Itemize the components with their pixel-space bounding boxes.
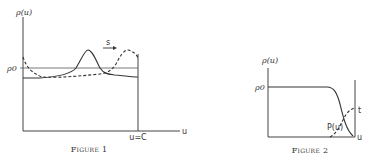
fig2-x-label: u — [357, 133, 362, 142]
fig2-rho0-label: ρ0 — [254, 83, 265, 92]
fig1-arrow-head-icon — [113, 46, 117, 50]
fig1-rho0-label: ρ0 — [6, 64, 17, 73]
fig2-arrow-label: t — [358, 106, 361, 115]
fig2-caption: Figure 2 — [292, 146, 329, 155]
fig1-boundary-label: u=C — [129, 133, 147, 142]
fig2-curve-label: P(u) — [327, 123, 343, 132]
fig1-dashed-curve — [23, 50, 138, 77]
fig1-arrow-label: s — [106, 38, 110, 47]
fig1-caption: Figure 1 — [71, 145, 108, 154]
figure-1: s ρ(u) ρ0 u u=C Figure 1 — [6, 8, 187, 154]
figures-canvas: s ρ(u) ρ0 u u=C Figure 1 ρ(u) ρ0 P(u) t … — [0, 0, 373, 161]
fig1-solid-curve — [23, 50, 138, 78]
figure-2: ρ(u) ρ0 P(u) t u Figure 2 — [254, 56, 362, 155]
fig1-y-label: ρ(u) — [15, 8, 32, 17]
fig1-x-label: u — [182, 127, 187, 136]
fig2-y-label: ρ(u) — [261, 56, 278, 65]
